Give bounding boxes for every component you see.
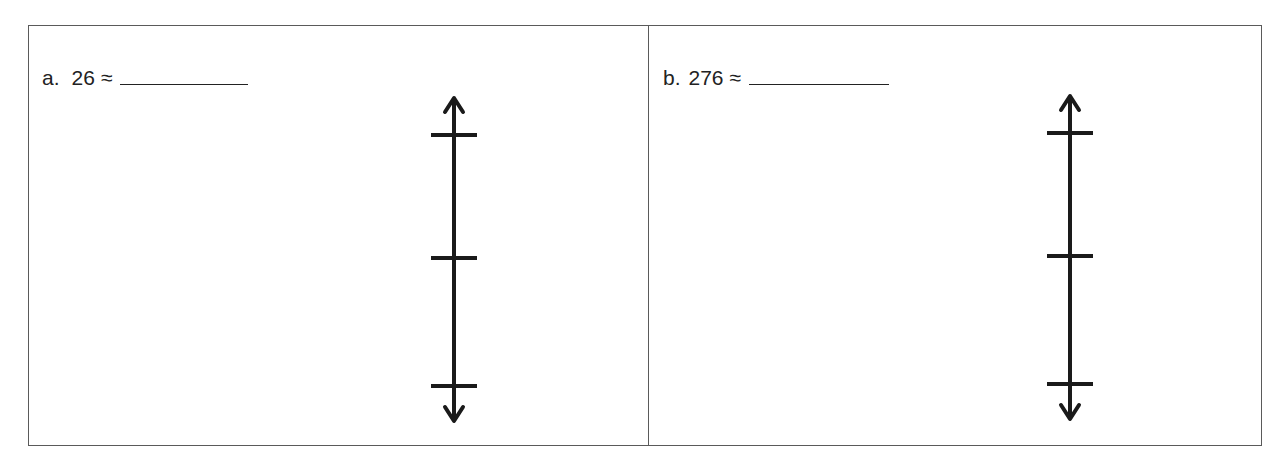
vertical-number-line: [427, 90, 481, 430]
approx-symbol: ≈: [730, 66, 742, 90]
worksheet: a. 26 ≈ b. 276 ≈: [28, 25, 1262, 446]
problem-panel-a: a. 26 ≈: [29, 26, 649, 445]
answer-blank[interactable]: [120, 83, 248, 85]
problem-a: a. 26 ≈: [42, 66, 248, 90]
vertical-number-line: [1043, 88, 1097, 428]
problem-b: b. 276 ≈: [663, 66, 889, 90]
problem-label: b.: [663, 66, 681, 90]
answer-blank[interactable]: [749, 83, 889, 85]
approx-symbol: ≈: [101, 66, 113, 90]
problem-number: 26: [72, 66, 95, 90]
problem-label: a.: [42, 66, 60, 90]
problem-panel-b: b. 276 ≈: [649, 26, 1261, 445]
problem-number: 276: [689, 66, 724, 90]
